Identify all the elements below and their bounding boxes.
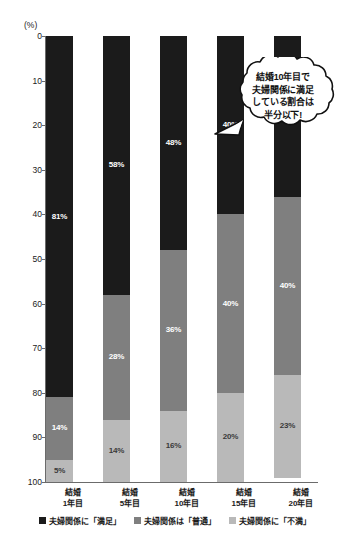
legend-item-label: 夫婦関係に「不満」 [239, 515, 311, 526]
bar-segment: 14% [103, 420, 130, 482]
bar-segment-value-label: 48% [166, 139, 181, 147]
legend-item-label: 夫婦関係に「満足」 [49, 515, 121, 526]
bar-segment: 36% [160, 250, 187, 411]
bar-segment: 40% [274, 197, 301, 375]
stacked-bar: 81%14%5% [46, 36, 73, 482]
y-axis-tick-mark [42, 482, 46, 483]
stacked-bar: 36%40%23% [274, 36, 301, 482]
y-axis-tick-label: 10 [18, 76, 42, 85]
y-axis-tick-label: 70 [18, 344, 42, 353]
bar-segment: 28% [103, 295, 130, 420]
y-axis-tick-label: 50 [18, 255, 42, 264]
bar-segment-value-label: 23% [280, 422, 295, 430]
bar-segment: 40% [217, 36, 244, 214]
legend-item[interactable]: 夫婦関係に「不満」 [229, 515, 311, 526]
stacked-bar: 58%28%14% [103, 36, 130, 482]
bar-segment: 14% [46, 397, 73, 459]
y-axis-tick-label: 100 [18, 478, 42, 487]
y-axis-tick-label: 30 [18, 166, 42, 175]
bar-segment-value-label: 40% [223, 121, 238, 129]
y-axis-tick-label: 90 [18, 433, 42, 442]
x-axis-line [45, 482, 318, 483]
y-axis-tick-label: 0 [18, 32, 42, 41]
legend-swatch-icon [134, 517, 141, 524]
bar-segment-value-label: 28% [109, 353, 124, 361]
bar-segment-value-label: 36% [166, 326, 181, 334]
stacked-bar: 40%40%20% [217, 36, 244, 482]
bar-segment-value-label: 16% [166, 442, 181, 450]
x-axis-category-label: 結婚20年目 [266, 487, 336, 509]
bar-segment: 48% [160, 36, 187, 250]
legend-swatch-icon [229, 517, 236, 524]
bar-segment: 23% [274, 375, 301, 478]
legend-item-label: 夫婦関係は「普通」 [144, 515, 216, 526]
category-label-line: 結婚 [266, 487, 336, 498]
bar-segment: 36% [274, 36, 301, 197]
bar-segment-value-label: 58% [109, 161, 124, 169]
bar-segment-value-label: 81% [52, 213, 67, 221]
stacked-bar: 48%36%16% [160, 36, 187, 482]
bar-segment: 58% [103, 36, 130, 295]
bar-segment-value-label: 14% [52, 424, 67, 432]
bar-segment-value-label: 40% [223, 300, 238, 308]
bar-segment-value-label: 14% [109, 447, 124, 455]
y-axis-tick-label: 40 [18, 210, 42, 219]
y-axis-tick-label: 80 [18, 389, 42, 398]
y-axis-unit-label: (%) [24, 20, 37, 30]
bar-segment: 20% [217, 393, 244, 482]
bar-segment: 40% [217, 214, 244, 392]
bar-segment-value-label: 5% [54, 467, 65, 475]
legend-item[interactable]: 夫婦関係は「普通」 [134, 515, 216, 526]
bar-segment-value-label: 20% [223, 433, 238, 441]
bar-segment: 16% [160, 411, 187, 482]
y-axis-tick-label: 60 [18, 299, 42, 308]
y-axis-tick-label: 20 [18, 121, 42, 130]
bar-segment: 5% [46, 460, 73, 482]
chart-root: (%) 0102030405060708090100 81%14%5%58%28… [0, 0, 349, 549]
legend-item[interactable]: 夫婦関係に「満足」 [39, 515, 121, 526]
bar-segment-value-label: 36% [280, 112, 295, 120]
bar-segment: 81% [46, 36, 73, 397]
legend-swatch-icon [39, 517, 46, 524]
category-label-line: 20年目 [266, 498, 336, 509]
bar-segment-value-label: 40% [280, 282, 295, 290]
chart-legend: 夫婦関係に「満足」夫婦関係は「普通」夫婦関係に「不満」 [0, 515, 349, 526]
